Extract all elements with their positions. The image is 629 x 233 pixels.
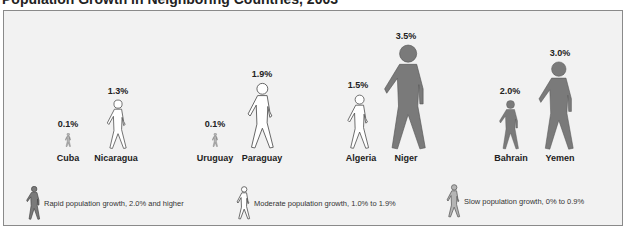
person-icon-nicaragua [104,99,130,150]
value-label-nicaragua: 1.3% [108,86,129,96]
person-icon-uruguay [212,133,218,147]
country-label-cuba: Cuba [57,153,80,163]
value-label-uruguay: 0.1% [205,119,226,129]
person-icon-yemen [531,61,583,151]
slow-person-icon [446,184,461,218]
person-icon-algeria [344,94,373,150]
person-icon-bahrain [494,100,525,150]
chart-panel: 0.1% Cuba 1.3% Nicaragua 0.1% Uruguay 1.… [3,10,623,226]
chart-title: Population Growth in Neighboring Countri… [2,0,338,7]
value-label-algeria: 1.5% [348,80,369,90]
value-label-yemen: 3.0% [550,48,571,58]
legend-label-slow: Slow population growth, 0% to 0.9% [464,197,584,206]
country-label-uruguay: Uruguay [197,153,234,163]
country-label-yemen: Yemen [545,153,574,163]
moderate-person-icon [236,186,251,220]
legend-label-rapid: Rapid population growth, 2.0% and higher [44,199,184,208]
person-icon-cuba [65,133,71,147]
country-label-algeria: Algeria [346,153,377,163]
legend-item-slow: Slow population growth, 0% to 0.9% [446,184,584,218]
country-label-niger: Niger [394,153,417,163]
country-label-bahrain: Bahrain [494,153,528,163]
legend-label-moderate: Moderate population growth, 1.0% to 1.9% [254,199,396,208]
value-label-bahrain: 2.0% [500,86,521,96]
person-icon-niger [376,44,436,151]
legend-item-moderate: Moderate population growth, 1.0% to 1.9% [236,186,396,220]
legend-item-rapid: Rapid population growth, 2.0% and higher [26,186,184,220]
person-icon-paraguay [244,82,278,150]
value-label-cuba: 0.1% [58,119,79,129]
value-label-niger: 3.5% [396,31,417,41]
rapid-person-icon [26,186,41,220]
value-label-paraguay: 1.9% [252,69,273,79]
country-label-paraguay: Paraguay [242,153,283,163]
country-label-nicaragua: Nicaragua [94,153,138,163]
